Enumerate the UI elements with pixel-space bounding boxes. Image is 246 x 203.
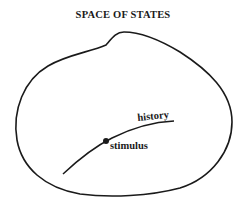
stimulus-point bbox=[103, 138, 109, 144]
state-space-diagram bbox=[0, 0, 246, 203]
state-space-boundary bbox=[16, 32, 232, 196]
stimulus-label: stimulus bbox=[110, 140, 148, 151]
